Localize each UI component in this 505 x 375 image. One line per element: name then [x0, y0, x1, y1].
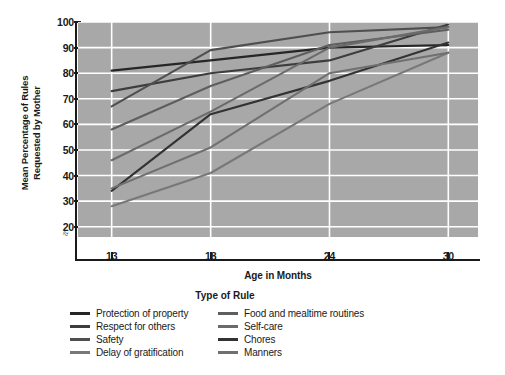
legend-item-label: Manners	[244, 347, 282, 358]
legend-item[interactable]: Safety	[70, 333, 218, 346]
legend-item-label: Self-care	[244, 321, 283, 332]
legend-item[interactable]: Manners	[218, 346, 366, 359]
legend-item-label: Safety	[96, 334, 123, 345]
legend-item-label: Chores	[244, 334, 275, 345]
legend-item[interactable]: Protection of property	[70, 307, 218, 320]
legend-line-swatch	[218, 312, 238, 315]
legend-item[interactable]: Delay of gratification	[70, 346, 218, 359]
y-axis-title-line2: Requested by Mother	[30, 86, 41, 180]
plot-svg	[78, 22, 478, 237]
legend-line-swatch	[70, 312, 90, 315]
y-axis-tick-label: 90	[44, 43, 74, 53]
y-axis-tick-label: 100	[44, 17, 74, 27]
x-axis-spine	[75, 259, 480, 261]
chart-figure: Mean Percentage of Rules Requested by Mo…	[0, 0, 505, 375]
legend-item-label: Delay of gratification	[96, 347, 183, 358]
legend-line-swatch	[70, 325, 90, 328]
series-line	[112, 53, 449, 207]
legend-line-swatch	[70, 338, 90, 341]
legend-item[interactable]: Self-care	[218, 320, 366, 333]
y-axis-tick-label: 30	[44, 196, 74, 206]
legend-item[interactable]: Chores	[218, 333, 366, 346]
y-axis-tick-label: 80	[44, 68, 74, 78]
legend-columns: Protection of propertyRespect for others…	[70, 307, 440, 359]
legend-column: Protection of propertyRespect for others…	[70, 307, 218, 359]
legend-column: Food and mealtime routinesSelf-careChore…	[218, 307, 366, 359]
y-axis-title-line1: Mean Percentage of Rules	[19, 76, 30, 191]
y-axis-tick-label: 40	[44, 171, 74, 181]
legend-line-swatch	[218, 351, 238, 354]
legend-line-swatch	[70, 351, 90, 354]
y-axis-tick-label: 70	[44, 94, 74, 104]
y-axis-spine	[75, 21, 77, 260]
legend-item-label: Food and mealtime routines	[244, 308, 364, 319]
legend-item[interactable]: Respect for others	[70, 320, 218, 333]
y-axis-tick-label: 60	[44, 119, 74, 129]
legend-title: Type of Rule	[70, 290, 380, 301]
series-line	[112, 30, 449, 130]
y-axis-tick-label: 50	[44, 145, 74, 155]
legend-line-swatch	[218, 325, 238, 328]
legend-item-label: Respect for others	[96, 321, 175, 332]
plot-area	[78, 22, 478, 237]
legend-item-label: Protection of property	[96, 308, 188, 319]
chart-legend: Type of Rule Protection of propertyRespe…	[70, 290, 440, 370]
legend-line-swatch	[218, 338, 238, 341]
legend-item[interactable]: Food and mealtime routines	[218, 307, 366, 320]
x-axis-title: Age in Months	[78, 270, 478, 281]
